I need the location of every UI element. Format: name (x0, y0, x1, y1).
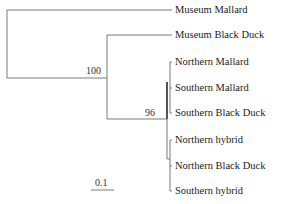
taxon-label-southern-mallard: Southern Mallard (175, 82, 249, 94)
taxon-label-museum-mallard: Museum Mallard (175, 4, 248, 16)
bootstrap-value-100: 100 (86, 65, 101, 77)
taxon-label-northern-black-duck: Northern Black Duck (175, 160, 265, 172)
taxon-label-southern-black-duck: Southern Black Duck (175, 107, 265, 119)
taxon-label-northern-hybrid: Northern hybrid (175, 134, 243, 146)
taxon-label-northern-mallard: Northern Mallard (175, 56, 249, 68)
scale-bar-label: 0.1 (95, 177, 108, 189)
taxon-label-museum-black-duck: Museum Black Duck (175, 29, 264, 41)
bootstrap-value-96: 96 (145, 107, 155, 119)
taxon-label-southern-hybrid: Southern hybrid (175, 185, 243, 197)
